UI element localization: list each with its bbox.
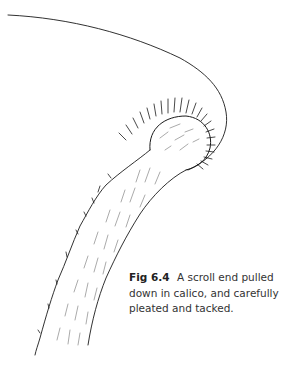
tack-marks <box>38 174 111 333</box>
arm-front-left <box>35 150 150 355</box>
figure: Fig 6.4 A scroll end pulled down in cali… <box>0 0 287 367</box>
figure-label: Fig 6.4 <box>129 271 170 283</box>
figure-caption: Fig 6.4 A scroll end pulled down in cali… <box>129 270 279 317</box>
arm-outline <box>8 15 227 170</box>
arm-front-right <box>88 170 186 345</box>
pleat-ticks <box>119 98 215 169</box>
